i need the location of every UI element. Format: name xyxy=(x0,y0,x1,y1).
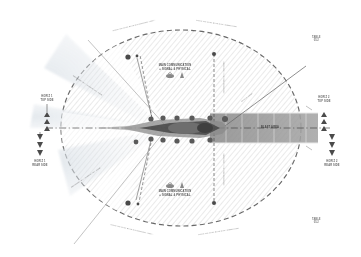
corner-tag-bottom-right: TABLE 05.2 xyxy=(312,218,320,225)
upper-sector-label-line1: MAIN COMMUNICATION xyxy=(151,64,199,67)
corner-tag-top-right-line2: 05.2 xyxy=(314,39,319,42)
blast-area-label: BLAST AREA xyxy=(254,126,286,129)
right-top-dim-label-line1: HORIZ 2 xyxy=(307,96,341,99)
callout-axis-upper: CENTRE AXIS REFERENCE xyxy=(223,54,226,100)
right-bottom-dim-label-line1: HORIZ 2 xyxy=(315,160,349,163)
plan-drawing-svg xyxy=(0,0,361,257)
corner-tag-bottom-right-line2: 05.2 xyxy=(314,221,319,224)
callout-axis-lower: CENTRE AXIS REFERENCE xyxy=(223,146,226,192)
right-top-dim-label-line2: TOP SIDE xyxy=(307,100,341,103)
right-bottom-dim-label-line2: REAR SIDE xyxy=(315,164,349,167)
left-bottom-dim-label-line2: REAR SIDE xyxy=(23,164,57,167)
lower-sector-label-line2: + SIGNAL & PHYSICAL xyxy=(151,194,199,197)
left-top-dim-label-line2: TOP SIDE xyxy=(30,99,64,102)
lower-sector-label-line1: MAIN COMMUNICATION xyxy=(151,190,199,193)
left-top-dim-label-line1: HORIZ 1 xyxy=(30,95,64,98)
dimension-arrows-right xyxy=(321,112,335,156)
diagram-canvas: TABLE 05.2 TABLE 05.2 LIMIT OF THE SHIP'… xyxy=(0,0,361,257)
upper-sector-label-line2: + SIGNAL & PHYSICAL xyxy=(151,68,199,71)
left-bottom-dim-label-line1: HORIZ 1 xyxy=(23,160,57,163)
corner-tag-top-right: TABLE 05.2 xyxy=(312,36,320,43)
